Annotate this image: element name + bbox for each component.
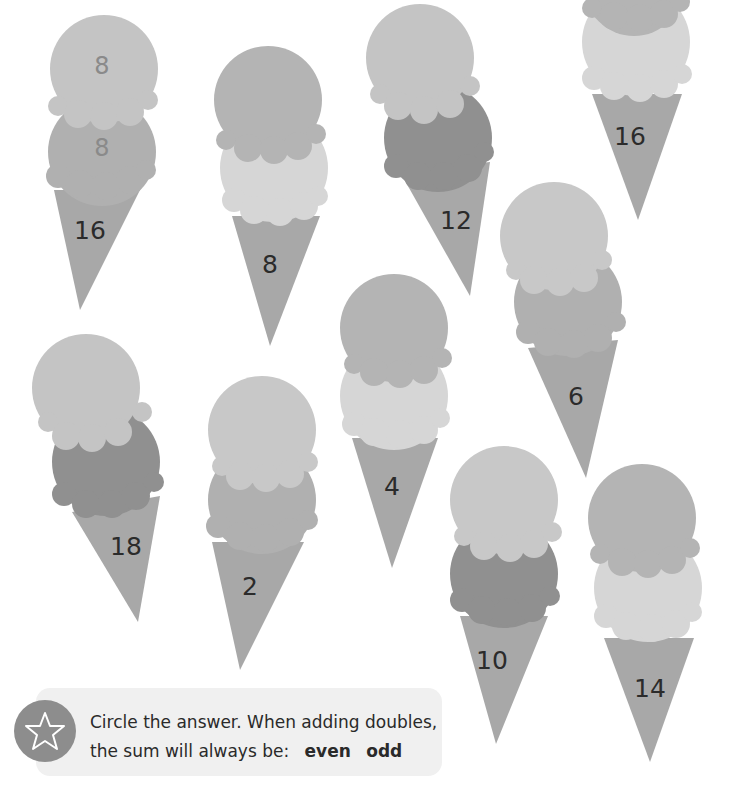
cone-number: 12 <box>426 206 486 235</box>
ice-cream-cone-5: 6 <box>498 182 628 482</box>
cone-number: 10 <box>462 646 522 675</box>
ice-cream-cone-icon <box>28 332 168 632</box>
ice-cream-cone-8: 4 <box>338 272 458 572</box>
ice-cream-cone-6: 18 <box>28 332 168 632</box>
cone-number: 4 <box>362 472 422 501</box>
cone-number: 18 <box>96 532 156 561</box>
ice-cream-cone-9: 10 <box>446 446 566 746</box>
ice-cream-cone-1: 8 8 16 <box>44 14 164 314</box>
ice-cream-cone-10: 14 <box>584 464 704 764</box>
ice-cream-cone-icon <box>366 6 496 306</box>
ice-cream-cone-icon <box>338 272 458 572</box>
cone-number: 16 <box>60 216 120 245</box>
cone-number: 8 <box>240 250 300 279</box>
ice-cream-cone-icon <box>204 376 324 676</box>
star-icon <box>14 700 76 762</box>
ice-cream-cone-7: 2 <box>204 376 324 676</box>
scoop-number: 8 <box>82 52 122 80</box>
star-badge <box>14 700 76 762</box>
ice-cream-cone-icon <box>498 182 628 482</box>
ice-cream-cone-icon <box>212 50 332 350</box>
ice-cream-cone-icon <box>446 446 566 746</box>
answer-even[interactable]: even <box>305 741 351 761</box>
tip-text: Circle the answer. When adding doubles, … <box>90 708 437 766</box>
ice-cream-cone-icon <box>584 464 704 764</box>
tip-line-2: the sum will always be: even odd <box>90 737 437 766</box>
cone-number: 2 <box>220 572 280 601</box>
answer-odd[interactable]: odd <box>366 741 402 761</box>
ice-cream-cone-3: 12 <box>366 6 496 306</box>
cone-number: 16 <box>600 122 660 151</box>
cone-number: 6 <box>546 382 606 411</box>
tip-line-2-text: the sum will always be: <box>90 741 289 761</box>
cone-number: 14 <box>620 674 680 703</box>
scoop-number: 8 <box>82 134 122 162</box>
tip-line-1: Circle the answer. When adding doubles, <box>90 708 437 737</box>
ice-cream-cone-2: 8 <box>212 50 332 350</box>
